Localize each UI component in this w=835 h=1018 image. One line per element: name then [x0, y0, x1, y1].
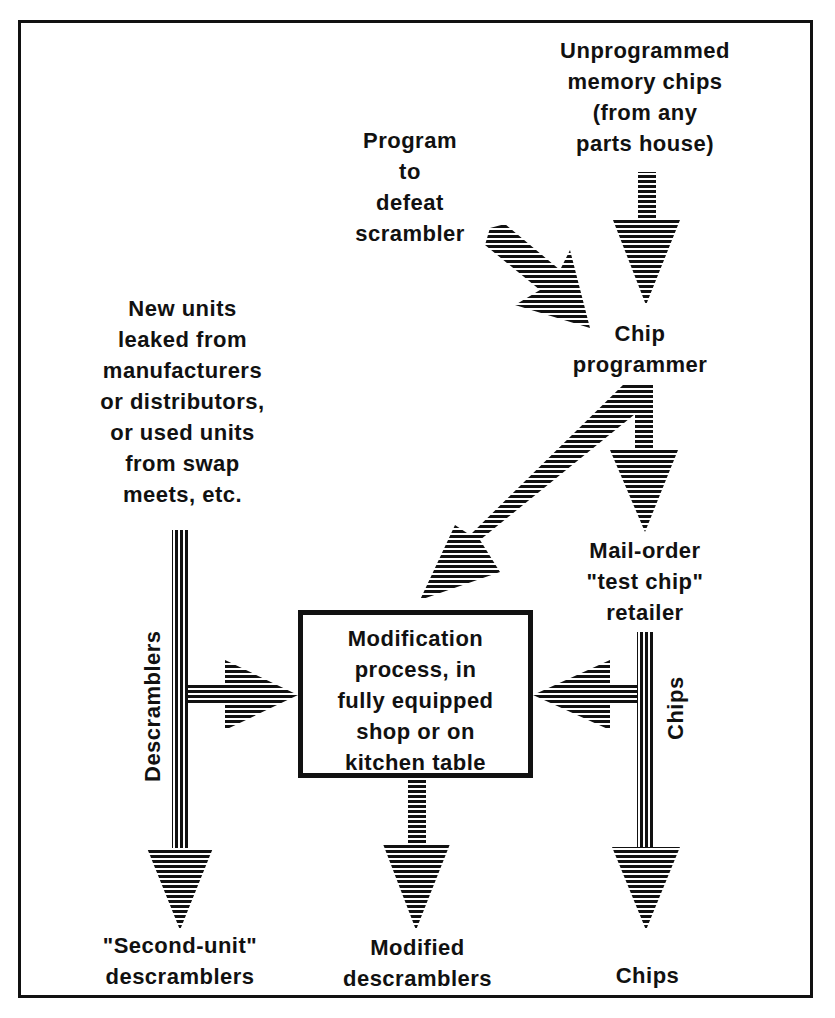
node-mail-order-retailer: Mail-order "test chip" retailer	[545, 535, 745, 628]
arrow-descramblers-to-modification	[188, 660, 298, 730]
edge-label-chips: Chips	[663, 676, 689, 740]
node-chips-output: Chips	[580, 960, 715, 991]
node-program: Program to defeat scrambler	[330, 125, 490, 249]
node-chip-programmer: Chip programmer	[540, 318, 740, 380]
arrow-modification-to-modified	[383, 778, 450, 930]
node-modified-descramblers: Modified descramblers	[320, 932, 515, 994]
arrow-program-to-programmer	[485, 224, 590, 328]
arrow-chips-to-modification	[533, 660, 637, 730]
edge-label-descramblers: Descramblers	[140, 630, 166, 782]
node-second-unit-descramblers: "Second-unit" descramblers	[75, 930, 285, 992]
node-modification-process: Modification process, in fully equipped …	[298, 610, 533, 778]
modification-process-label: Modification process, in fully equipped …	[303, 615, 528, 778]
node-new-units: New units leaked from manufacturers or d…	[65, 293, 300, 510]
arrow-chips-to-programmer	[613, 172, 680, 305]
node-unprogrammed-chips: Unprogrammed memory chips (from any part…	[525, 35, 765, 159]
